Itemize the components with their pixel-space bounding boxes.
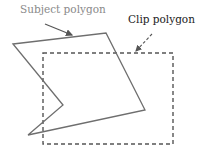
subject-arrow-icon xyxy=(45,24,72,35)
subject-polygon xyxy=(13,33,145,135)
subject-polygon-label: Subject polygon xyxy=(20,3,106,15)
clip-polygon xyxy=(43,53,173,144)
clip-arrow-icon xyxy=(136,34,152,51)
clip-polygon-label: Clip polygon xyxy=(128,13,195,25)
